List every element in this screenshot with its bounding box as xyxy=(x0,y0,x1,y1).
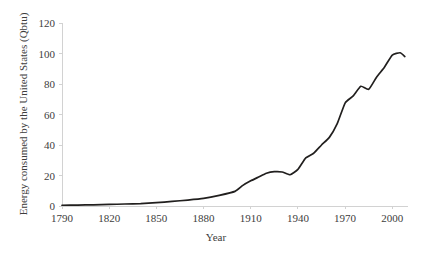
x-tick-label: 1910 xyxy=(240,212,263,224)
x-tick-label: 1790 xyxy=(51,212,74,224)
y-tick-label: 0 xyxy=(50,200,56,212)
energy-consumption-line-chart: 020406080100120 179018201850188019101940… xyxy=(0,0,430,258)
y-tick-label: 20 xyxy=(44,170,56,182)
x-tick-label: 1970 xyxy=(334,212,357,224)
x-tick-label: 1820 xyxy=(98,212,121,224)
y-tick-label: 80 xyxy=(44,78,56,90)
x-tick-label: 1940 xyxy=(287,212,310,224)
y-tick-label: 60 xyxy=(44,109,56,121)
y-tick-label: 120 xyxy=(39,17,56,29)
y-tick-label: 100 xyxy=(39,48,56,60)
x-tick-label: 1880 xyxy=(193,212,216,224)
x-axis-title: Year xyxy=(206,231,227,243)
y-tick-label: 40 xyxy=(44,139,56,151)
chart-figure: 020406080100120 179018201850188019101940… xyxy=(0,0,430,258)
x-tick-label: 2000 xyxy=(381,212,404,224)
x-tick-label: 1850 xyxy=(145,212,168,224)
y-axis-title: Energy consumed by the United States (Qb… xyxy=(17,12,30,215)
